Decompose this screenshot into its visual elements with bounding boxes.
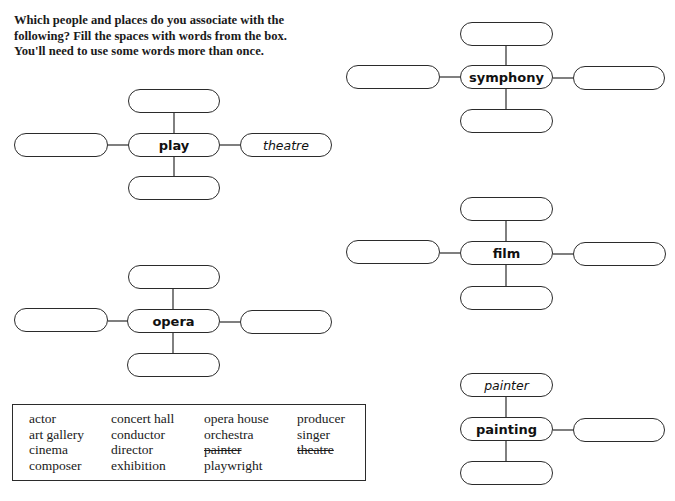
instructions-line-2: following? Fill the spaces with words fr… — [14, 29, 344, 45]
painting-bottom-field[interactable] — [460, 461, 553, 485]
instructions: Which people and places do you associate… — [14, 13, 344, 60]
film-top-field[interactable] — [460, 197, 553, 221]
word-orchestra[interactable]: orchestra — [204, 427, 253, 443]
opera-bottom-field[interactable] — [127, 353, 220, 377]
play-right-field[interactable]: theatre — [240, 133, 332, 157]
symphony-bottom-field[interactable] — [460, 109, 553, 133]
instructions-line-1: Which people and places do you associate… — [14, 13, 344, 29]
painting-right-field[interactable] — [573, 418, 665, 442]
word-exhibition[interactable]: exhibition — [111, 458, 166, 474]
instructions-line-3: You'll need to use some words more than … — [14, 44, 344, 60]
play-center-label: play — [128, 133, 220, 157]
opera-right-field[interactable] — [240, 310, 332, 334]
play-left-field[interactable] — [14, 133, 108, 157]
opera-top-field[interactable] — [128, 265, 220, 289]
word-producer[interactable]: producer — [297, 411, 345, 427]
word-playwright[interactable]: playwright — [204, 458, 263, 474]
film-right-field[interactable] — [573, 242, 666, 266]
word-singer[interactable]: singer — [297, 427, 330, 443]
film-left-field[interactable] — [346, 240, 440, 264]
play-bottom-field[interactable] — [128, 176, 220, 200]
symphony-top-field[interactable] — [460, 22, 553, 46]
painting-center-label: painting — [460, 417, 553, 441]
word-conductor[interactable]: conductor — [111, 427, 165, 443]
word-art-gallery[interactable]: art gallery — [29, 427, 84, 443]
play-top-field[interactable] — [128, 89, 220, 113]
film-center-label: film — [460, 241, 553, 265]
symphony-right-field[interactable] — [573, 66, 665, 90]
word-actor[interactable]: actor — [29, 411, 56, 427]
opera-left-field[interactable] — [14, 308, 108, 332]
word-concert-hall[interactable]: concert hall — [111, 411, 174, 427]
word-composer[interactable]: composer — [29, 458, 81, 474]
opera-center-label: opera — [127, 309, 220, 333]
painting-top-field[interactable]: painter — [460, 373, 553, 397]
word-painter-struck[interactable]: painter — [204, 442, 241, 458]
symphony-center-label: symphony — [460, 65, 553, 89]
symphony-left-field[interactable] — [346, 65, 440, 89]
word-theatre-struck[interactable]: theatre — [297, 442, 334, 458]
word-opera-house[interactable]: opera house — [204, 411, 269, 427]
word-cinema[interactable]: cinema — [29, 442, 68, 458]
word-director[interactable]: director — [111, 442, 153, 458]
word-box: actor art gallery cinema composer concer… — [12, 404, 366, 481]
film-bottom-field[interactable] — [460, 286, 553, 310]
